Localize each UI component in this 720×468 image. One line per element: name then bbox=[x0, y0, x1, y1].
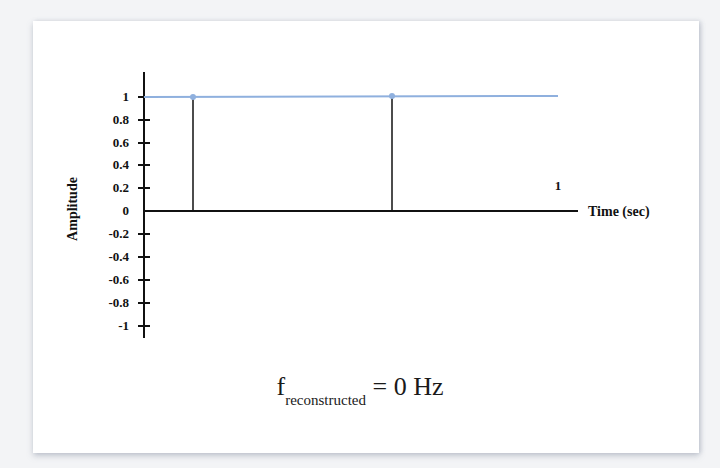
y-tick-label: 0.4 bbox=[113, 157, 130, 172]
reconstructed-frequency-annotation: freconstructed = 0 Hz bbox=[0, 372, 720, 409]
formula-value: = 0 Hz bbox=[366, 372, 443, 401]
sample-marker bbox=[389, 93, 395, 99]
y-axis-title: Amplitude bbox=[65, 177, 80, 241]
y-tick-label: -1 bbox=[118, 318, 129, 333]
y-tick-label: -0.6 bbox=[108, 272, 129, 287]
x-axis-title: Time (sec) bbox=[588, 204, 650, 220]
y-tick-label: 0.8 bbox=[113, 112, 130, 127]
y-tick-label: -0.4 bbox=[108, 249, 129, 264]
y-tick-label: 1 bbox=[123, 89, 130, 104]
formula-subscript: reconstructed bbox=[285, 392, 366, 408]
y-tick-label: 0.2 bbox=[113, 180, 129, 195]
x-tick-label: 1 bbox=[555, 178, 562, 193]
y-tick-label: -0.2 bbox=[108, 226, 129, 241]
formula-base: f bbox=[277, 372, 286, 401]
y-tick-label: -0.8 bbox=[108, 295, 129, 310]
reconstructed-signal-line bbox=[144, 96, 558, 97]
y-tick-labels: 1 0.8 0.6 0.4 0.2 0 -0.2 -0.4 -0.6 -0.8 … bbox=[108, 89, 129, 333]
sample-marker bbox=[190, 94, 196, 100]
y-tick-label: 0.6 bbox=[113, 135, 130, 150]
y-tick-label: 0 bbox=[123, 203, 130, 218]
